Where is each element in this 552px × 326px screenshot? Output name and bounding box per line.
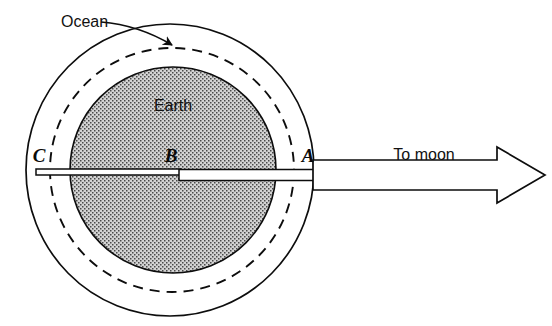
diagram-canvas: Ocean Earth C B A To moon (0, 0, 552, 326)
axis-segment-c-to-b (36, 169, 181, 175)
point-c-label: C (33, 145, 46, 166)
point-b-label: B (164, 145, 178, 166)
point-a-label: A (301, 145, 315, 166)
ocean-label: Ocean (61, 13, 108, 30)
earth-label: Earth (154, 97, 192, 114)
axis-segment-b-to-a (179, 170, 315, 181)
tidal-bulge-diagram: Ocean Earth C B A To moon (0, 0, 552, 326)
to-moon-label: To moon (393, 146, 454, 163)
